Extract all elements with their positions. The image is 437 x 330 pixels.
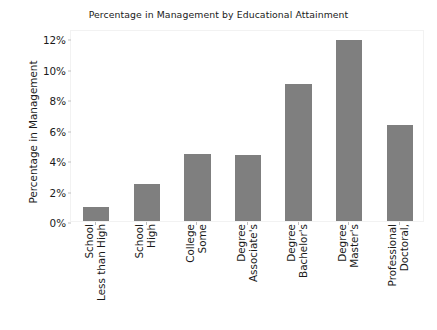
bar-slot <box>387 31 413 221</box>
x-axis-tick-line: Degree <box>337 224 348 262</box>
bar[interactable] <box>336 40 362 221</box>
x-axis-tick-line: Doctoral, <box>399 224 410 271</box>
bar-slot <box>184 31 210 221</box>
bar-slot <box>285 31 311 221</box>
x-axis-tick-line: Professional <box>387 224 398 286</box>
bar-slot <box>235 31 261 221</box>
chart-figure: Percentage in Management by Educational … <box>0 0 437 330</box>
x-axis-tick-line: Degree <box>286 224 297 262</box>
bar[interactable] <box>387 125 413 221</box>
x-axis-tick-line: School <box>134 224 145 259</box>
bar-slot <box>336 31 362 221</box>
x-axis-tick-line: Degree <box>236 224 247 262</box>
bar[interactable] <box>285 84 311 221</box>
plot-area: 0%2%4%6%8%10%12% <box>70 30 424 222</box>
chart-title: Percentage in Management by Educational … <box>0 9 437 20</box>
bar[interactable] <box>184 154 210 221</box>
y-axis-label: Percentage in Management <box>27 32 39 232</box>
x-axis-tick-line: College <box>185 224 196 263</box>
bar-slot <box>83 31 109 221</box>
bar-slot <box>134 31 160 221</box>
bar-series <box>71 31 423 221</box>
x-axis-tick-label: Doctoral,Professional <box>359 224 437 286</box>
bar[interactable] <box>83 207 109 221</box>
x-axis-tick-line: School <box>84 224 95 259</box>
bar[interactable] <box>134 184 160 221</box>
y-axis-tick-label: 10% <box>43 65 71 77</box>
bar[interactable] <box>235 155 261 221</box>
y-axis-tick-label: 12% <box>43 34 71 46</box>
